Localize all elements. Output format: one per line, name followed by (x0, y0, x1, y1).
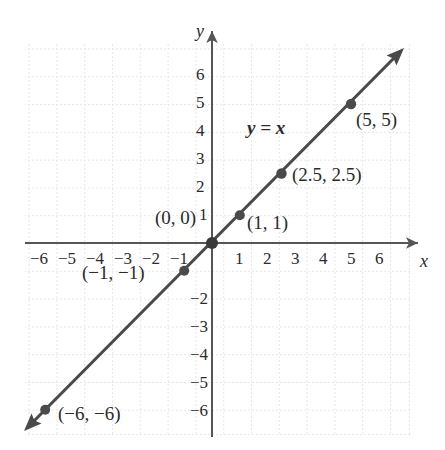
y-tick-minus-2: −2 (190, 290, 208, 307)
point-label-1-1: (1, 1) (247, 213, 288, 232)
x-tick-minus-6: −6 (30, 250, 48, 267)
y-axis-label: y (196, 22, 204, 40)
y-tick-minus-5: −5 (190, 374, 208, 391)
x-tick-6: 6 (375, 250, 384, 267)
x-axis-label: x (420, 252, 428, 270)
y-tick-5: 5 (196, 94, 205, 111)
y-tick-2: 2 (196, 178, 205, 195)
y-tick-6: 6 (196, 66, 205, 83)
y-tick-1: 1 (199, 206, 208, 223)
y-tick-minus-6: −6 (190, 402, 208, 419)
x-tick-5: 5 (347, 250, 356, 267)
data-point-origin (206, 237, 218, 249)
y-tick-4: 4 (196, 122, 205, 139)
x-tick-3: 3 (291, 250, 300, 267)
point-label-2p5-2p5: (2.5, 2.5) (292, 165, 362, 184)
coordinate-plane-svg (0, 0, 445, 450)
y-tick-minus-3: −3 (190, 318, 208, 335)
x-tick-minus-5: −5 (58, 250, 76, 267)
point-label-minus1-minus1: (−1, −1) (82, 263, 145, 282)
y-tick-minus-4: −4 (190, 346, 208, 363)
graph-figure: y x −6 −5 −4 −3 −2 −1 1 2 3 4 5 6 6 5 4 … (0, 0, 445, 450)
x-tick-minus-1: −1 (170, 250, 188, 267)
x-tick-1: 1 (235, 250, 244, 267)
data-point (346, 99, 356, 109)
point-label-5-5: (5, 5) (356, 110, 397, 129)
data-point (235, 210, 245, 220)
data-point (40, 405, 50, 415)
y-tick-3: 3 (196, 150, 205, 167)
point-label-origin: (0, 0) (155, 208, 196, 227)
x-tick-2: 2 (263, 250, 272, 267)
point-label-minus6-minus6: (−6, −6) (58, 404, 121, 423)
data-point (276, 168, 286, 178)
equation-label: y = x (247, 118, 285, 137)
x-tick-4: 4 (319, 250, 328, 267)
